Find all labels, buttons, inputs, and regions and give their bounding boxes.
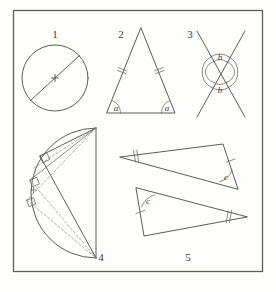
figure-plate: 1 a a 2 (0, 0, 276, 292)
figure-1-circle: 1 (22, 28, 88, 111)
tick-right-leg-2 (156, 71, 165, 74)
semicircle-arc (31, 128, 96, 258)
angle-arc-right-inner-connector (226, 62, 234, 83)
figure-2-isosceles-triangle: a a 2 (107, 28, 175, 113)
chord-p1-to-bottom (40, 156, 96, 258)
chord-p3-to-bottom (27, 200, 96, 258)
angle-label-a-right: a (165, 103, 170, 113)
figure-number-5: 5 (185, 251, 191, 263)
tick-right-leg-1 (155, 68, 164, 71)
angle-label-b-top: b (218, 52, 223, 62)
triangle-upper: c (120, 144, 238, 189)
angle-arc-left-inner-connector (206, 62, 214, 83)
figure-3-vertical-angles: b b 3 (187, 28, 245, 117)
triangle-upper-outline (120, 144, 238, 189)
angle-label-c-lower: c (146, 196, 150, 206)
chord-p2-to-bottom (30, 180, 96, 258)
tick-upper-double-2 (137, 150, 139, 162)
figure-number-1: 1 (52, 28, 58, 40)
tick-upper-double-1 (134, 151, 136, 163)
tick-left-leg-1 (118, 68, 127, 71)
chord-top-to-p2 (30, 128, 96, 180)
chord-top-to-p1 (40, 128, 96, 156)
figure-number-2: 2 (118, 28, 124, 40)
triangle-lower: c (136, 188, 247, 236)
angle-arc-left-connector (202, 57, 211, 87)
figure-4-thales-semicircle: 4 (27, 128, 104, 263)
angle-label-c-upper: c (224, 172, 228, 182)
figure-5-congruent-triangles: c c 5 (120, 144, 247, 263)
angle-label-b-bottom: b (218, 85, 223, 95)
geometry-plate-svg: 1 a a 2 (0, 0, 276, 292)
outer-border (14, 11, 263, 272)
tick-left-leg-2 (117, 71, 126, 74)
angle-label-a-left: a (114, 103, 119, 113)
angle-arc-right-connector (229, 57, 238, 87)
figure-number-3: 3 (187, 28, 193, 40)
figure-number-4: 4 (98, 251, 104, 263)
